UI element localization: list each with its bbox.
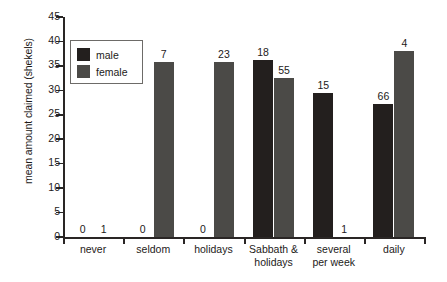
legend-label-male: male — [96, 49, 119, 61]
y-tick-label: 45 — [34, 10, 60, 22]
category-label-daily: daily — [364, 243, 424, 256]
category-label-sabbath-holidays: Sabbath &holidays — [244, 243, 304, 268]
legend-swatch-male-icon — [77, 48, 90, 61]
value-label: 15 — [306, 79, 340, 91]
legend-swatch-female-icon — [77, 65, 90, 78]
bar-male-sabbath-holidays — [253, 60, 273, 237]
category-label-line: several — [304, 243, 364, 256]
y-tick-label: 20 — [34, 132, 60, 144]
y-tick-label: 40 — [34, 34, 60, 46]
bar-chart: mean amount claimed (shekels) 0510152025… — [0, 0, 447, 282]
bar-male-several-per-week — [313, 93, 333, 237]
value-label: 0 — [186, 223, 220, 235]
y-tick-label: 25 — [34, 107, 60, 119]
y-axis-line — [63, 17, 65, 237]
legend-label-female: female — [96, 66, 128, 78]
value-label: 23 — [207, 48, 241, 60]
value-label: 4 — [387, 37, 421, 49]
category-label-line: Sabbath & — [244, 243, 304, 256]
value-label: 18 — [246, 46, 280, 58]
category-label-never: never — [63, 243, 123, 256]
bar-female-sabbath-holidays — [274, 78, 294, 237]
category-label-seldom: seldom — [123, 243, 183, 256]
bar-male-daily — [373, 104, 393, 237]
category-label-line: seldom — [123, 243, 183, 256]
y-tick-label: 30 — [34, 83, 60, 95]
y-axis-title: mean amount claimed (shekels) — [22, 11, 34, 211]
y-tick-label: 35 — [34, 58, 60, 70]
value-label: 7 — [147, 48, 181, 60]
bar-female-seldom — [154, 62, 174, 237]
y-tick-label: 0 — [34, 230, 60, 242]
legend-item-male: male — [77, 46, 137, 63]
bar-female-daily — [394, 51, 414, 237]
y-tick-label: 10 — [34, 181, 60, 193]
bar-female-holidays — [214, 62, 234, 237]
category-label-line: daily — [364, 243, 424, 256]
legend-item-female: female — [77, 63, 137, 80]
legend: male female — [70, 40, 143, 84]
category-label-line: holidays — [244, 256, 304, 269]
category-label-line: per week — [304, 256, 364, 269]
category-label-several-per-week: severalper week — [304, 243, 364, 268]
value-label: 55 — [267, 64, 301, 76]
category-label-line: never — [63, 243, 123, 256]
value-label: 66 — [366, 90, 400, 102]
y-tick-label: 15 — [34, 156, 60, 168]
y-tick-label: 5 — [34, 205, 60, 217]
category-label-holidays: holidays — [183, 243, 243, 256]
category-label-line: holidays — [183, 243, 243, 256]
value-label: 1 — [327, 223, 361, 235]
value-label: 0 — [126, 223, 160, 235]
value-label: 1 — [87, 223, 121, 235]
x-tick — [424, 237, 426, 244]
